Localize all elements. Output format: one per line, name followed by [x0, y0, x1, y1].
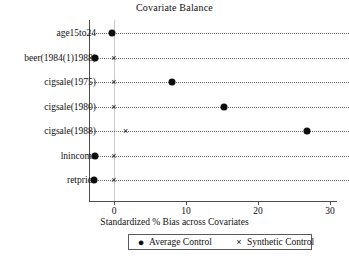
row-gridline: [89, 58, 349, 59]
x-tick-mark: [114, 201, 115, 205]
cross-marker-icon: ×: [234, 237, 244, 247]
data-point-average-control: [169, 79, 176, 86]
legend-entry-synthetic-control: × Synthetic Control: [234, 237, 314, 247]
filled-circle-marker-icon: ●: [136, 236, 146, 248]
x-tick-mark: [258, 201, 259, 205]
legend-label-average-control: Average Control: [149, 237, 212, 247]
y-axis-label-cigsale-1975: cigsale(1975): [44, 77, 96, 87]
x-tick-label-30: 30: [315, 206, 345, 216]
x-tick-mark: [330, 201, 331, 205]
data-point-average-control: [221, 103, 228, 110]
covariate-balance-chart: Covariate Balance age15to24beer(1984(1)1…: [0, 0, 349, 259]
y-axis-label-age15to24: age15to24: [56, 28, 96, 38]
x-axis-line: [89, 201, 337, 202]
data-point-synthetic-control: ×: [110, 102, 119, 111]
data-point-average-control: [90, 177, 97, 184]
data-point-synthetic-control: ×: [121, 127, 130, 136]
row-gridline: [89, 82, 349, 83]
y-axis-label-beer-1984-1-1988: beer(1984(1)1988): [24, 53, 96, 63]
chart-legend: ● Average Control × Synthetic Control: [128, 234, 312, 250]
x-tick-mark: [186, 201, 187, 205]
x-tick-label-10: 10: [171, 206, 201, 216]
chart-title: Covariate Balance: [0, 2, 349, 13]
x-tick-label-20: 20: [243, 206, 273, 216]
data-point-synthetic-control: ×: [107, 29, 116, 38]
x-axis-title: Standardized % Bias across Covariates: [0, 217, 349, 227]
y-axis-label-cigsale-1988: cigsale(1988): [44, 126, 96, 136]
data-point-synthetic-control: ×: [110, 176, 119, 185]
data-point-average-control: [92, 54, 99, 61]
y-axis-label-cigsale-1980: cigsale(1980): [44, 102, 96, 112]
legend-label-synthetic-control: Synthetic Control: [247, 237, 314, 247]
row-gridline: [89, 33, 349, 34]
row-gridline: [89, 107, 349, 108]
x-tick-label-0: 0: [99, 206, 129, 216]
data-point-synthetic-control: ×: [110, 151, 119, 160]
data-point-synthetic-control: ×: [110, 53, 119, 62]
data-point-average-control: [91, 152, 98, 159]
data-point-average-control: [303, 128, 310, 135]
legend-entry-average-control: ● Average Control: [136, 236, 212, 248]
row-gridline: [89, 156, 349, 157]
row-gridline: [89, 180, 349, 181]
data-point-synthetic-control: ×: [110, 78, 119, 87]
